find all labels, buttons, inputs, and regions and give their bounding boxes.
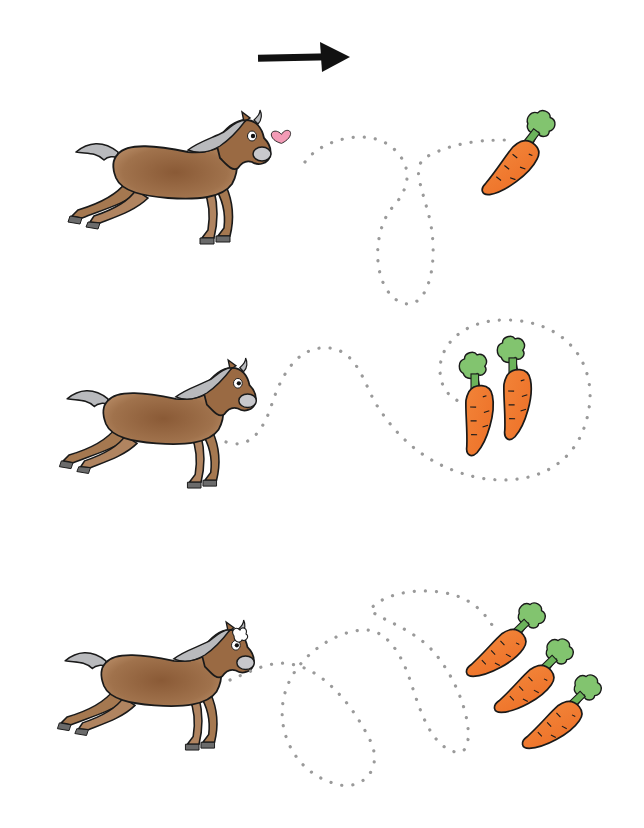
carrot-2a: [438, 349, 513, 457]
trace-path-3[interactable]: [230, 591, 495, 786]
row-2: [59, 320, 590, 488]
trace-path-1[interactable]: [305, 137, 510, 304]
trace-path-2[interactable]: [226, 320, 590, 480]
horse-trotting: [59, 358, 256, 488]
right-arrow-icon: [258, 42, 350, 72]
row-3: [57, 589, 605, 786]
row-1: [68, 100, 558, 304]
worksheet-canvas: [0, 0, 644, 828]
carrot-1: [481, 100, 559, 209]
horse-puffing: [57, 620, 254, 750]
puff-cloud-icon: [233, 628, 248, 642]
heart-icon: [271, 130, 290, 143]
horse-with-heart: [68, 110, 271, 244]
